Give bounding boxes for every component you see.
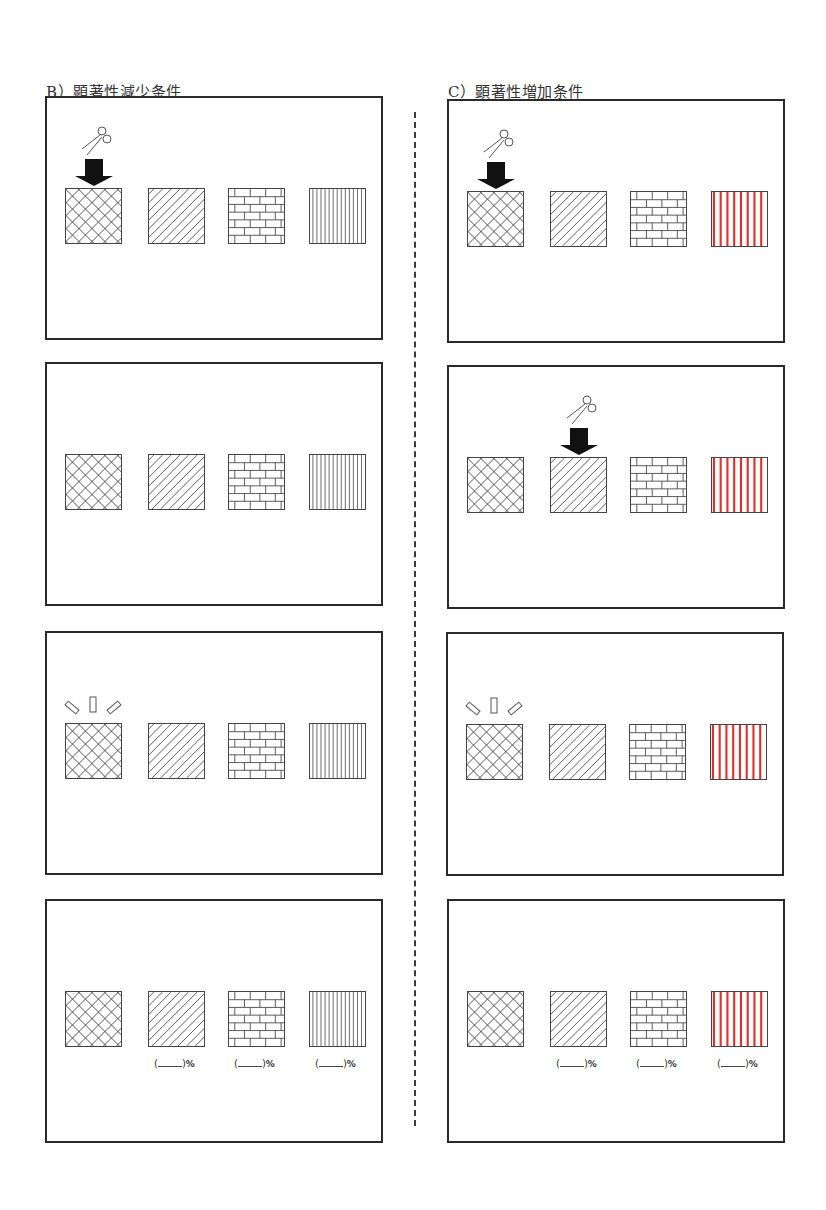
stimulus-brick <box>630 191 687 247</box>
stimulus-vertical-stripes <box>711 457 768 513</box>
stimulus-diagonal-lines <box>148 454 205 510</box>
percent-answer-field: ()% <box>636 1058 677 1069</box>
stimulus-crosshatch <box>466 724 523 780</box>
stimulus-vertical-stripes <box>309 454 366 510</box>
panel-b-3 <box>45 631 383 875</box>
stimulus-crosshatch <box>65 991 122 1047</box>
percent-symbol: % <box>266 1059 275 1069</box>
panel-b-1 <box>45 96 383 340</box>
blank-line <box>560 1059 584 1067</box>
highlight-burst-icon <box>464 697 524 723</box>
stimulus-crosshatch <box>467 457 524 513</box>
stimulus-brick <box>228 188 285 244</box>
stimulus-crosshatch <box>65 188 122 244</box>
stimulus-diagonal-lines <box>148 188 205 244</box>
stimulus-crosshatch <box>65 723 122 779</box>
stimulus-brick <box>228 991 285 1047</box>
percent-symbol: % <box>668 1059 677 1069</box>
percent-symbol: % <box>749 1059 758 1069</box>
stimulus-diagonal-lines <box>148 991 205 1047</box>
column-divider <box>414 112 416 1126</box>
panel-c-1 <box>447 99 785 343</box>
stimulus-brick <box>228 723 285 779</box>
stimulus-vertical-stripes <box>711 991 768 1047</box>
blank-line <box>640 1059 664 1067</box>
percent-symbol: % <box>347 1059 356 1069</box>
stimulus-brick <box>629 724 686 780</box>
blank-line <box>319 1059 343 1067</box>
blank-line <box>238 1059 262 1067</box>
column-title-c: C）顕著性増加条件 <box>448 80 584 101</box>
scissors-arrow-icon <box>74 123 114 191</box>
stimulus-diagonal-lines <box>550 457 607 513</box>
blank-line <box>721 1059 745 1067</box>
highlight-burst-icon <box>63 696 123 722</box>
percent-symbol: % <box>588 1059 597 1069</box>
panel-c-4: ()%()%()% <box>447 899 785 1143</box>
stimulus-brick <box>630 457 687 513</box>
stimulus-vertical-stripes <box>710 724 767 780</box>
stimulus-vertical-stripes <box>711 191 768 247</box>
stimulus-crosshatch <box>467 991 524 1047</box>
percent-answer-field: ()% <box>154 1058 195 1069</box>
stimulus-vertical-stripes <box>309 991 366 1047</box>
stimulus-diagonal-lines <box>550 991 607 1047</box>
panel-c-3 <box>446 632 784 876</box>
percent-answer-field: ()% <box>234 1058 275 1069</box>
stimulus-brick <box>630 991 687 1047</box>
panel-b-2 <box>45 362 383 606</box>
stimulus-crosshatch <box>467 191 524 247</box>
scissors-arrow-icon <box>559 392 599 460</box>
scissors-arrow-icon <box>476 126 516 194</box>
blank-line <box>158 1059 182 1067</box>
stimulus-vertical-stripes <box>309 188 366 244</box>
percent-answer-field: ()% <box>717 1058 758 1069</box>
stimulus-brick <box>228 454 285 510</box>
stimulus-diagonal-lines <box>148 723 205 779</box>
stimulus-crosshatch <box>65 454 122 510</box>
stimulus-diagonal-lines <box>550 191 607 247</box>
stimulus-diagonal-lines <box>549 724 606 780</box>
panel-c-2 <box>447 365 785 609</box>
percent-answer-field: ()% <box>315 1058 356 1069</box>
panel-b-4: ()%()%()% <box>45 899 383 1143</box>
percent-symbol: % <box>186 1059 195 1069</box>
stimulus-vertical-stripes <box>309 723 366 779</box>
percent-answer-field: ()% <box>556 1058 597 1069</box>
